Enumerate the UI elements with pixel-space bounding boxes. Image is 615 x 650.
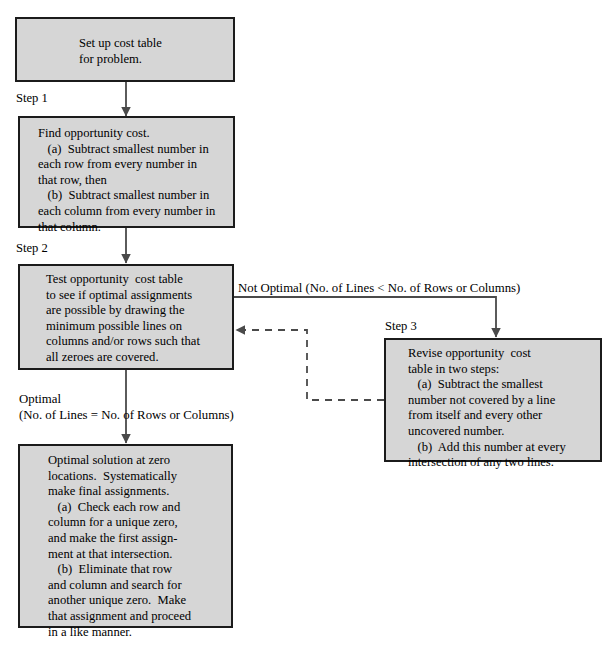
edge-label-not-optimal: Not Optimal (No. of Lines < No. of Rows …	[238, 280, 520, 296]
box-optimal-solution-text: Optimal solution at zero locations. Syst…	[48, 453, 230, 640]
edge-label-optimal: Optimal	[19, 391, 61, 407]
step-label-1: Step 1	[16, 91, 48, 107]
box-optimal-solution[interactable]: Optimal solution at zero locations. Syst…	[18, 444, 233, 628]
connector-step2-to-step3	[234, 297, 496, 337]
box-revise-opportunity-cost-table[interactable]: Revise opportunity cost table in two ste…	[384, 338, 602, 462]
box-setup-cost-table[interactable]: Set up cost table for problem.	[15, 17, 235, 82]
box-test-opportunity-cost-table-text: Test opportunity cost table to see if op…	[46, 272, 236, 366]
box-find-opportunity-cost[interactable]: Find opportunity cost. (a) Subtract smal…	[18, 116, 235, 228]
box-setup-cost-table-text: Set up cost table for problem.	[79, 36, 239, 67]
edge-label-optimal-condition: (No. of Lines = No. of Rows or Columns)	[19, 407, 234, 423]
box-test-opportunity-cost-table[interactable]: Test opportunity cost table to see if op…	[18, 264, 234, 370]
box-revise-opportunity-cost-table-text: Revise opportunity cost table in two ste…	[408, 346, 602, 471]
flowchart-canvas: Set up cost table for problem. Step 1 Fi…	[0, 0, 615, 650]
step-label-3: Step 3	[385, 319, 417, 335]
step-label-2: Step 2	[16, 241, 48, 257]
box-find-opportunity-cost-text: Find opportunity cost. (a) Subtract smal…	[38, 126, 234, 235]
connector-step3-feedback-dashed	[236, 330, 384, 400]
